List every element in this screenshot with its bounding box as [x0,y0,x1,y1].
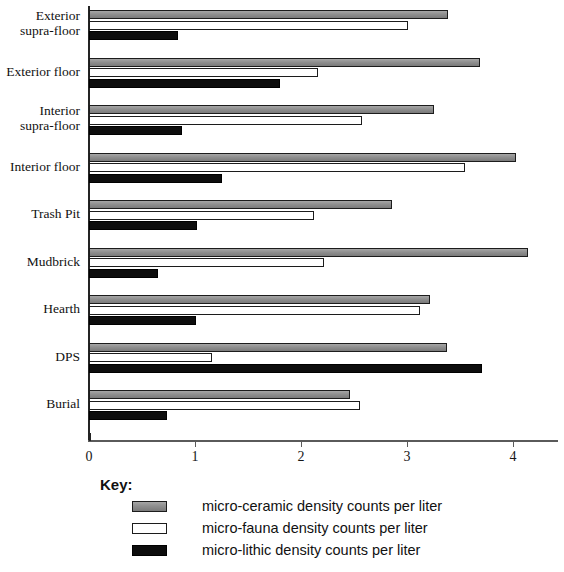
bar-lithic [89,31,178,40]
bar-lithic [89,79,280,88]
category-group: Trash Pit [0,196,564,244]
bar-lithic [89,411,167,420]
bar-ceramic [89,58,480,67]
category-group: Hearth [0,291,564,339]
legend-title: Key: [100,476,133,493]
legend-swatch-fauna [132,523,167,534]
x-tick [407,440,408,447]
bar-fauna [89,211,314,220]
category-group: Mudbrick [0,244,564,292]
bar-lithic [89,316,196,325]
bar-lithic [89,126,182,135]
bar-ceramic [89,295,430,304]
legend-label-lithic: micro-lithic density counts per liter [202,541,420,560]
category-group: Exterior supra-floor [0,6,564,54]
chart-legend: Key: micro-ceramic density counts per li… [0,476,564,572]
bar-ceramic [89,105,434,114]
bar-fauna [89,68,318,77]
x-tick-label: 2 [286,449,316,465]
bar-lithic [89,269,158,278]
category-label: Burial [0,396,80,411]
category-group: Exterior floor [0,54,564,102]
plot-area: Exterior supra-floorExterior floorInteri… [0,0,564,450]
x-tick [301,440,302,447]
bar-ceramic [89,390,350,399]
horizontal-bar-chart: Exterior supra-floorExterior floorInteri… [0,0,564,572]
bar-fauna [89,116,362,125]
category-group: Burial [0,386,564,434]
bar-ceramic [89,248,528,257]
bar-fauna [89,163,465,172]
x-tick-origin [89,433,91,441]
bar-ceramic [89,200,392,209]
legend-label-fauna: micro-fauna density counts per liter [202,519,428,538]
bar-fauna [89,306,420,315]
category-label: Interior supra-floor [0,103,80,133]
x-axis-line [88,440,558,442]
category-group: Interior floor [0,149,564,197]
x-tick [195,440,196,447]
category-group: Interior supra-floor [0,101,564,149]
category-label: Exterior floor [0,64,80,79]
bar-ceramic [89,343,447,352]
bar-fauna [89,21,408,30]
x-tick-label: 0 [74,449,104,465]
x-tick-label: 3 [392,449,422,465]
category-label: DPS [0,349,80,364]
category-group: DPS [0,339,564,387]
category-label: Trash Pit [0,206,80,221]
bar-ceramic [89,153,516,162]
bar-ceramic [89,10,448,19]
category-label: Hearth [0,301,80,316]
x-tick-label: 4 [498,449,528,465]
legend-swatch-ceramic [132,501,167,512]
bar-fauna [89,353,212,362]
legend-swatch-lithic [132,545,167,556]
x-tick [513,440,514,447]
bar-lithic [89,221,197,230]
category-label: Exterior supra-floor [0,8,80,38]
bar-fauna [89,258,324,267]
category-label: Mudbrick [0,254,80,269]
category-label: Interior floor [0,159,80,174]
x-tick-label: 1 [180,449,210,465]
legend-label-ceramic: micro-ceramic density counts per liter [202,497,442,516]
bar-lithic [89,364,482,373]
bar-fauna [89,401,360,410]
bar-lithic [89,174,222,183]
